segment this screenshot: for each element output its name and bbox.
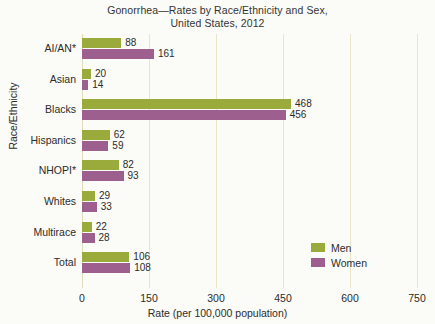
bar-value-label: 82 [123, 160, 134, 170]
bar-value-label: 33 [101, 202, 112, 212]
bar-value-label: 59 [112, 141, 123, 151]
bar-men [82, 38, 121, 48]
bar-value-label: 28 [99, 233, 110, 243]
x-tick-0: 0 [79, 292, 85, 304]
bar-value-label: 20 [95, 69, 106, 79]
category-label-asian: Asian [0, 74, 76, 85]
bar-value-label: 22 [96, 222, 107, 232]
bar-value-label: 108 [134, 263, 151, 273]
bar-men [82, 130, 110, 140]
chart-title: Gonorrhea—Rates by Race/Ethnicity and Se… [0, 4, 435, 29]
bar-group: 2014 [82, 69, 417, 91]
legend-swatch-women [311, 258, 325, 267]
category-label-nhopi: NHOPI* [0, 165, 76, 176]
bar-value-label: 62 [114, 130, 125, 140]
x-tick-300: 300 [207, 292, 225, 304]
legend-item-women[interactable]: Women [311, 255, 367, 270]
bar-women [82, 263, 130, 273]
bar-group: 88161 [82, 38, 417, 60]
bar-value-label: 456 [290, 110, 307, 120]
legend-item-men[interactable]: Men [311, 240, 367, 255]
bar-women [82, 233, 95, 243]
gridline-750 [417, 34, 418, 288]
x-tick-450: 450 [274, 292, 292, 304]
bar-value-label: 93 [128, 171, 139, 181]
chart-container: Gonorrhea—Rates by Race/Ethnicity and Se… [0, 0, 435, 324]
category-label-whites: Whites [0, 196, 76, 207]
bar-men [82, 99, 291, 109]
bar-men [82, 191, 95, 201]
legend: MenWomen [311, 240, 367, 270]
bar-men [82, 252, 129, 262]
y-axis-title: Race/Ethnicity [7, 51, 19, 181]
bar-group: 8293 [82, 160, 417, 182]
chart-title-line2: United States, 2012 [0, 17, 435, 30]
bar-men [82, 69, 91, 79]
legend-swatch-men [311, 243, 325, 252]
category-label-hispanics: Hispanics [0, 135, 76, 146]
bar-women [82, 80, 88, 90]
bar-men [82, 222, 92, 232]
legend-label-men: Men [331, 242, 351, 254]
bar-women [82, 141, 108, 151]
x-tick-600: 600 [341, 292, 359, 304]
bar-group: 468456 [82, 99, 417, 121]
x-axis-title: Rate (per 100,000 population) [0, 307, 435, 319]
bar-group: 6259 [82, 130, 417, 152]
x-tick-150: 150 [140, 292, 158, 304]
legend-label-women: Women [331, 257, 367, 269]
bar-group: 2933 [82, 191, 417, 213]
chart-title-line1: Gonorrhea—Rates by Race/Ethnicity and Se… [0, 4, 435, 17]
bar-women [82, 171, 124, 181]
category-label-multirace: Multirace [0, 227, 76, 238]
category-label-total: Total [0, 257, 76, 268]
bar-value-label: 161 [158, 49, 175, 59]
bar-value-label: 14 [92, 80, 103, 90]
bar-value-label: 468 [295, 99, 312, 109]
bar-women [82, 49, 154, 59]
bar-men [82, 160, 119, 170]
bar-value-label: 29 [99, 191, 110, 201]
bar-women [82, 202, 97, 212]
bar-women [82, 110, 286, 120]
bar-value-label: 88 [125, 38, 136, 48]
x-tick-750: 750 [408, 292, 426, 304]
category-label-aian: AI/AN* [0, 43, 76, 54]
bar-value-label: 106 [133, 252, 150, 262]
category-label-blacks: Blacks [0, 104, 76, 115]
